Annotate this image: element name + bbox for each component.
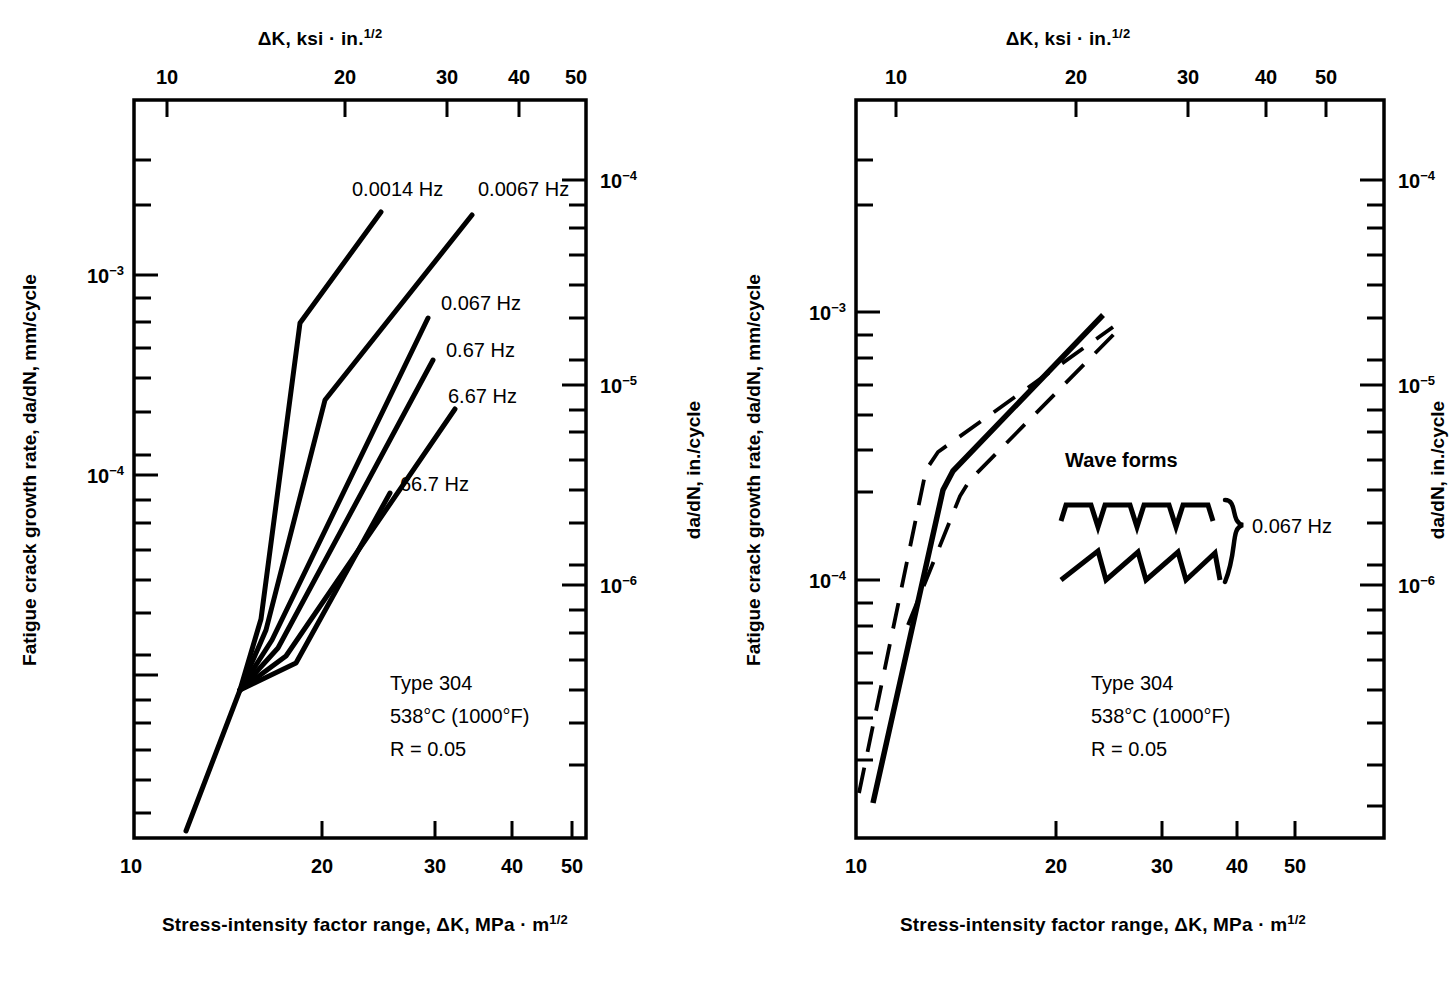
curve-label-1: 0.0067 Hz [478, 178, 569, 200]
right-ytick-1e-4-r: 10−4 [1398, 168, 1436, 192]
trapezoid-wave-icon [1061, 505, 1213, 527]
top-axis-title-left: ΔK, ksi · in.1/2 [258, 26, 383, 49]
left-ytick-1e-3: 10−3 [87, 263, 124, 287]
top-axis-title-right: ΔK, ksi · in.1/2 [1006, 26, 1131, 49]
chart-panel-right: ΔK, ksi · in.1/2 10 20 30 40 50 [728, 0, 1456, 987]
right-ytick-1e-6: 10−6 [600, 573, 637, 597]
left-ytick-1e-4: 10−4 [87, 463, 125, 487]
bottom-tick-label-10-r: 10 [845, 855, 867, 877]
brace-icon [1225, 500, 1243, 582]
top-tick-label-50: 50 [565, 66, 587, 88]
curve-0.0067hz [240, 215, 472, 690]
top-tick-label-30-r: 30 [1177, 66, 1199, 88]
left-axis-minor-ticks-right [856, 160, 880, 760]
top-tick-label-40: 40 [508, 66, 530, 88]
right-ytick-1e-5: 10−5 [600, 373, 637, 397]
right-axis-title-left-panel: da/dN, in./cycle [683, 401, 704, 539]
curve-lower-bound [908, 325, 1123, 625]
top-tick-label-10-r: 10 [885, 66, 907, 88]
bottom-tick-label-30: 30 [424, 855, 446, 877]
bottom-tick-label-30-r: 30 [1151, 855, 1173, 877]
chart-panel-left: ΔK, ksi · in.1/2 10 20 30 40 50 [0, 0, 728, 987]
curve-label-2: 0.067 Hz [441, 292, 521, 314]
right-axis-minor-ticks [562, 180, 586, 765]
top-tick-label-30: 30 [436, 66, 458, 88]
bottom-ticks-right [1056, 821, 1295, 838]
right-ytick-1e-5-r: 10−5 [1398, 373, 1435, 397]
bottom-tick-label-50: 50 [561, 855, 583, 877]
top-tick-label-40-r: 40 [1255, 66, 1277, 88]
curve-0.067hz [240, 318, 428, 690]
figure-root: ΔK, ksi · in.1/2 10 20 30 40 50 [0, 0, 1456, 987]
left-axis-title-right-panel: Fatigue crack growth rate, da/dN, mm/cyc… [743, 274, 764, 666]
top-ticks-right [896, 100, 1326, 117]
annotation-line-3-r: R = 0.05 [1091, 738, 1167, 760]
bottom-tick-label-20: 20 [311, 855, 333, 877]
annotation-line-2: 538°C (1000°F) [390, 705, 529, 727]
right-ytick-1e-4: 10−4 [600, 168, 638, 192]
bottom-axis-title-right: Stress-intensity factor range, ΔK, MPa ·… [900, 912, 1306, 935]
left-axis-minor-ticks [134, 160, 158, 813]
bottom-axis-title-left: Stress-intensity factor range, ΔK, MPa ·… [162, 912, 568, 935]
left-ytick-1e-3-r: 10−3 [809, 300, 846, 324]
top-tick-label-50-r: 50 [1315, 66, 1337, 88]
top-tick-label-20: 20 [334, 66, 356, 88]
right-axis-minor-ticks-right [1360, 180, 1384, 806]
right-ytick-1e-6-r: 10−6 [1398, 573, 1435, 597]
right-axis-title-right-panel: da/dN, in./cycle [1427, 401, 1448, 539]
curve-label-0: 0.0014 Hz [352, 178, 443, 200]
data-curves-right [859, 315, 1123, 803]
left-chart-svg: ΔK, ksi · in.1/2 10 20 30 40 50 [0, 0, 728, 987]
curve-upper-bound [859, 327, 1113, 793]
curve-label-4: 6.67 Hz [448, 385, 517, 407]
waveform-legend: Wave forms 0.067 Hz [1061, 449, 1332, 582]
bottom-ticks-left [322, 821, 572, 838]
annotation-line-1: Type 304 [390, 672, 472, 694]
curve-label-3: 0.67 Hz [446, 339, 515, 361]
bottom-tick-label-40: 40 [501, 855, 523, 877]
bottom-tick-label-10: 10 [120, 855, 142, 877]
curve-label-5: 66.7 Hz [400, 473, 469, 495]
plot-frame-left [134, 100, 586, 838]
right-chart-svg: ΔK, ksi · in.1/2 10 20 30 40 50 [728, 0, 1456, 987]
left-ytick-1e-4-r: 10−4 [809, 568, 847, 592]
top-tick-label-20-r: 20 [1065, 66, 1087, 88]
bottom-tick-label-20-r: 20 [1045, 855, 1067, 877]
left-axis-title-left-panel: Fatigue crack growth rate, da/dN, mm/cyc… [19, 274, 40, 666]
curve-common-stem [186, 690, 240, 831]
top-ticks-left [167, 100, 519, 117]
curve-mean-trend [873, 315, 1103, 803]
bottom-tick-label-50-r: 50 [1284, 855, 1306, 877]
annotation-line-1-r: Type 304 [1091, 672, 1173, 694]
top-tick-label-10: 10 [156, 66, 178, 88]
waveform-legend-title: Wave forms [1065, 449, 1178, 471]
annotation-line-3: R = 0.05 [390, 738, 466, 760]
bottom-tick-label-40-r: 40 [1226, 855, 1248, 877]
annotation-line-2-r: 538°C (1000°F) [1091, 705, 1230, 727]
sawtooth-wave-icon [1061, 551, 1220, 580]
waveform-frequency-label: 0.067 Hz [1252, 515, 1332, 537]
